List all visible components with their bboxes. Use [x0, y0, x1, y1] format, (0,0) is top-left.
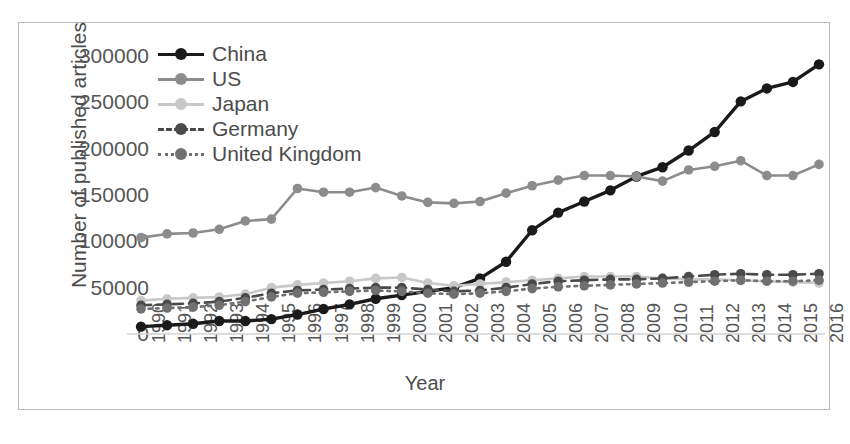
data-point — [292, 309, 302, 319]
data-point — [136, 233, 146, 243]
data-point — [606, 171, 616, 181]
legend-item-label: United Kingdom — [212, 142, 361, 166]
data-point — [423, 198, 433, 208]
legend-marker-icon — [158, 70, 204, 88]
data-point — [240, 316, 250, 326]
data-point — [579, 196, 589, 206]
data-point — [683, 145, 693, 155]
data-point — [214, 300, 224, 310]
data-point — [345, 187, 355, 197]
data-point — [605, 185, 615, 195]
data-point — [214, 316, 224, 326]
data-point — [345, 287, 355, 297]
legend-item-china[interactable]: China — [158, 41, 361, 66]
chart-screenshot: Number of published articles 05000010000… — [0, 0, 850, 444]
legend-marker-icon — [158, 95, 204, 113]
data-point — [449, 289, 459, 299]
legend-item-united-kingdom[interactable]: United Kingdom — [158, 141, 361, 166]
data-point — [684, 165, 694, 175]
data-point — [814, 160, 824, 170]
data-point — [136, 321, 146, 331]
legend-item-label: Japan — [212, 92, 269, 116]
data-point — [188, 319, 198, 329]
legend-dot-icon — [175, 98, 187, 110]
data-point — [475, 288, 485, 298]
chart-legend: ChinaUSJapanGermanyUnited Kingdom — [158, 41, 361, 166]
data-point — [397, 273, 407, 283]
data-point — [423, 288, 433, 298]
data-point — [162, 229, 172, 239]
legend-marker-icon — [158, 145, 204, 163]
legend-dot-icon — [175, 123, 187, 135]
data-point — [214, 224, 224, 234]
legend-item-label: US — [212, 67, 241, 91]
data-point — [527, 181, 537, 191]
data-point — [710, 161, 720, 171]
legend-item-label: Germany — [212, 117, 298, 141]
data-point — [162, 303, 172, 313]
data-point — [344, 299, 354, 309]
data-point — [814, 275, 824, 285]
data-point — [162, 320, 172, 330]
data-point — [501, 287, 511, 297]
legend-marker-icon — [158, 120, 204, 138]
legend-dot-icon — [175, 48, 187, 60]
x-axis-title: Year — [19, 372, 831, 395]
data-point — [736, 275, 746, 285]
data-point — [371, 183, 381, 193]
data-point — [319, 288, 329, 298]
data-point — [788, 77, 798, 87]
data-point — [318, 304, 328, 314]
data-point — [580, 281, 590, 291]
data-point — [788, 276, 798, 286]
data-point — [501, 188, 511, 198]
data-point — [371, 274, 381, 284]
data-point — [736, 96, 746, 106]
data-point — [788, 171, 798, 181]
data-point — [632, 279, 642, 289]
data-point — [449, 199, 459, 209]
legend-item-japan[interactable]: Japan — [158, 91, 361, 116]
data-point — [293, 288, 303, 298]
data-point — [710, 276, 720, 286]
data-point — [267, 214, 277, 224]
plot-area — [19, 23, 831, 411]
data-point — [553, 282, 563, 292]
data-point — [188, 228, 198, 238]
legend-marker-icon — [158, 45, 204, 63]
data-point — [267, 292, 277, 302]
data-point — [293, 184, 303, 194]
data-point — [241, 216, 251, 226]
data-point — [319, 187, 329, 197]
legend-item-us[interactable]: US — [158, 66, 361, 91]
data-point — [371, 286, 381, 296]
data-point — [553, 175, 563, 185]
data-point — [136, 304, 146, 314]
data-point — [606, 280, 616, 290]
data-point — [632, 172, 642, 182]
data-point — [580, 171, 590, 181]
data-point — [762, 83, 772, 93]
legend-item-label: China — [212, 42, 267, 66]
data-point — [658, 278, 668, 288]
data-point — [684, 277, 694, 287]
data-point — [762, 276, 772, 286]
data-point — [475, 197, 485, 207]
figure-frame: Number of published articles 05000010000… — [18, 22, 830, 410]
legend-item-germany[interactable]: Germany — [158, 116, 361, 141]
data-point — [241, 297, 251, 307]
data-point — [658, 176, 668, 186]
data-point — [527, 225, 537, 235]
legend-dot-icon — [175, 73, 187, 85]
data-point — [397, 191, 407, 201]
data-point — [527, 284, 537, 294]
data-point — [657, 162, 667, 172]
data-point — [762, 171, 772, 181]
legend-dot-icon — [175, 148, 187, 160]
data-point — [553, 207, 563, 217]
data-point — [397, 287, 407, 297]
data-point — [709, 127, 719, 137]
data-point — [736, 156, 746, 166]
data-point — [814, 59, 824, 69]
data-point — [266, 314, 276, 324]
